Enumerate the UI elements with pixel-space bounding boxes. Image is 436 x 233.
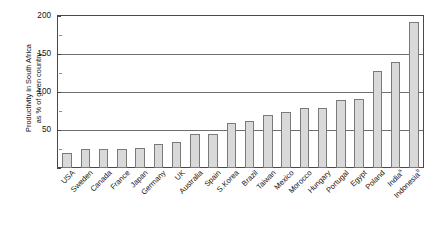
bar-germany <box>154 144 163 168</box>
y-tick-label-100: 100 <box>27 88 51 96</box>
bar-s-korea <box>227 123 236 168</box>
bar-australia <box>190 134 199 168</box>
x-tick-label-text: UK <box>172 168 186 182</box>
bar-canada <box>99 149 108 168</box>
bar-morocco <box>300 108 309 168</box>
bar-france <box>117 149 126 168</box>
bar-indonesia <box>409 22 418 168</box>
bar-india <box>391 62 400 168</box>
bar-mexico <box>281 112 290 168</box>
bar-chart: Productivity in South Africa as % of giv… <box>0 0 436 233</box>
bar-brazil <box>245 121 254 168</box>
y-axis-title: Productivity in South Africa as % of giv… <box>0 0 30 175</box>
bars-group <box>58 16 423 168</box>
bar-egypt <box>354 99 363 168</box>
bar-poland <box>373 71 382 168</box>
y-tick-label-50: 50 <box>27 126 51 134</box>
bar-hungary <box>318 108 327 168</box>
bar-taiwan <box>263 115 272 168</box>
bar-japan <box>135 148 144 168</box>
y-tick-label-200: 200 <box>27 12 51 20</box>
bar-uk <box>172 142 181 168</box>
bar-sweden <box>81 149 90 168</box>
bar-portugal <box>336 100 345 168</box>
bar-usa <box>62 153 71 168</box>
y-tick-label-150: 150 <box>27 50 51 58</box>
x-axis-labels: USASwedenCanadaFranceJapanGermanyUKAustr… <box>58 169 424 233</box>
bar-spain <box>208 134 217 168</box>
